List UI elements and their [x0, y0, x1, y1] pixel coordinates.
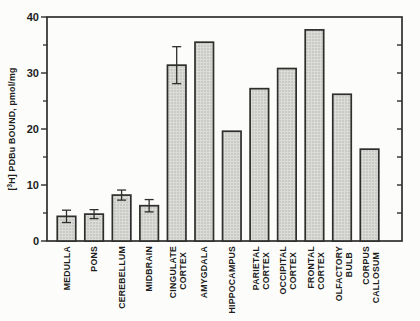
bar-label-corpus-callosum-line2: CALLOSUM	[371, 252, 381, 303]
bar-label-occipital-cortex-line1: OCCIPITAL	[278, 246, 288, 295]
bar-cingulate-cortex	[167, 65, 186, 241]
bar-label-hippocampus: HIPPOCAMPUS	[227, 246, 237, 313]
bar-occipital-cortex	[278, 69, 297, 241]
bar-chart: 010203040MEDULLAPONSCEREBELLUMMIDBRAINCI…	[0, 0, 420, 321]
bar-parietal-cortex	[250, 89, 269, 241]
y-tick-label-10: 10	[27, 179, 39, 191]
bar-olfactory-bulb	[333, 94, 352, 241]
y-tick-label-40: 40	[27, 11, 39, 23]
bar-cerebellum	[112, 195, 131, 241]
bar-label-midbrain: MIDBRAIN	[144, 246, 154, 291]
bar-label-frontal-cortex-line1: FRONTAL	[306, 246, 316, 289]
bar-hippocampus	[223, 131, 242, 241]
bar-label-olfactory-bulb-line2: BULB	[344, 252, 354, 277]
y-tick-label-20: 20	[27, 123, 39, 135]
bar-label-pons: PONS	[89, 246, 99, 272]
bar-label-medulla: MEDULLA	[62, 246, 72, 291]
y-tick-label-30: 30	[27, 67, 39, 79]
bar-label-parietal-cortex-line1: PARIETAL	[251, 246, 261, 291]
bar-label-amygdala: AMYGDALA	[199, 246, 209, 299]
bar-label-occipital-cortex-line2: CORTEX	[288, 252, 298, 290]
y-tick-label-0: 0	[33, 235, 39, 247]
bar-label-cingulate-cortex-line2: CORTEX	[178, 252, 188, 290]
bar-label-cerebellum: CEREBELLUM	[117, 246, 127, 309]
figure-canvas: 010203040MEDULLAPONSCEREBELLUMMIDBRAINCI…	[0, 0, 420, 321]
bar-corpus-callosum	[360, 149, 379, 241]
bar-label-frontal-cortex-line2: CORTEX	[316, 252, 326, 290]
bar-frontal-cortex	[305, 30, 324, 241]
y-axis-label: [3H] PDBu BOUND, pmol/mg	[6, 67, 17, 190]
bar-label-corpus-callosum-line1: CORPUS	[361, 246, 371, 285]
bar-label-parietal-cortex-line2: CORTEX	[261, 252, 271, 290]
bar-label-olfactory-bulb-line1: OLFACTORY	[334, 246, 344, 301]
bar-label-cingulate-cortex-line1: CINGULATE	[168, 246, 178, 298]
bar-amygdala	[195, 42, 214, 241]
